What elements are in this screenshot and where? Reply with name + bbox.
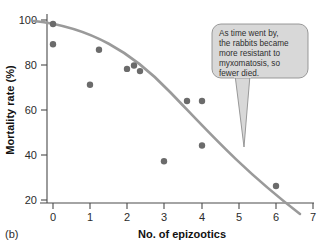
callout-line-1: As time went by, [219, 29, 278, 38]
callout-line-3: more resistant to [219, 49, 280, 58]
callout-line-4: myxomatosis, so [219, 59, 280, 68]
y-tick-label-40: 40 [25, 149, 37, 161]
y-axis-title: Mortality rate (%) [4, 65, 16, 155]
y-tick-label-20: 20 [25, 194, 37, 206]
data-point [137, 68, 143, 74]
mortality-scatter-chart: 100 80 60 40 20 0 1 2 3 4 5 6 7 No. of [0, 0, 318, 249]
x-tick-label-3: 3 [161, 211, 167, 223]
x-tick-label-2: 2 [124, 211, 130, 223]
x-axis-title: No. of epizootics [138, 228, 226, 240]
x-tick-label-1: 1 [87, 211, 93, 223]
data-point [199, 142, 205, 148]
panel-label: (b) [5, 228, 18, 240]
callout-line-2: the rabbits became [219, 39, 289, 48]
x-tick-label-0: 0 [50, 211, 56, 223]
data-point [50, 41, 56, 47]
data-point [96, 47, 102, 53]
y-tick-label-80: 80 [25, 59, 37, 71]
data-point [161, 158, 167, 164]
callout-line-5: fewer died. [219, 69, 259, 78]
data-point [50, 21, 56, 27]
x-tick-label-4: 4 [199, 211, 205, 223]
data-point [87, 82, 93, 88]
x-tick-label-5: 5 [236, 211, 242, 223]
data-point [184, 98, 190, 104]
x-tick-label-6: 6 [273, 211, 279, 223]
data-point [199, 98, 205, 104]
data-point [131, 62, 137, 68]
data-point [273, 183, 279, 189]
data-point [124, 66, 130, 72]
x-tick-label-7: 7 [310, 211, 316, 223]
y-tick-label-60: 60 [25, 104, 37, 116]
figure-panel: 100 80 60 40 20 0 1 2 3 4 5 6 7 No. of [0, 0, 318, 249]
